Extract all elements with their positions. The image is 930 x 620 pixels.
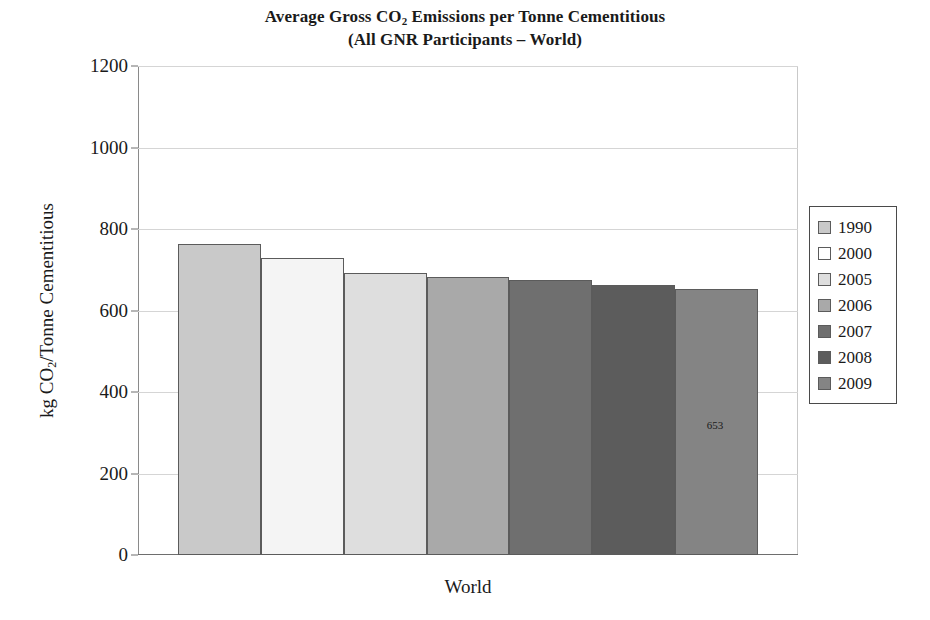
chart-title-line-1: Average Gross CO2 Emissions per Tonne Ce… <box>0 6 930 29</box>
chart-figure: Average Gross CO2 Emissions per Tonne Ce… <box>0 0 930 620</box>
chart-title: Average Gross CO2 Emissions per Tonne Ce… <box>0 6 930 52</box>
y-axis-tick-label: 800 <box>100 218 139 240</box>
y-axis-tick-label: 0 <box>119 544 139 566</box>
chart-legend: 1990200020052006200720082009 <box>809 206 897 404</box>
legend-swatch-icon <box>818 221 831 234</box>
bar-value-label: 653 <box>707 419 724 431</box>
legend-item-2000[interactable]: 2000 <box>818 240 888 266</box>
bar-2007 <box>509 280 592 555</box>
legend-item-label: 2006 <box>838 297 872 314</box>
y-axis-title-text-after-subscript: /Tonne Cementitious <box>36 203 57 362</box>
chart-title-text-before-subscript: Average Gross CO <box>265 7 402 26</box>
legend-swatch-icon <box>818 325 831 338</box>
legend-item-label: 2005 <box>838 271 872 288</box>
legend-item-2007[interactable]: 2007 <box>818 318 888 344</box>
chart-subtitle: (All GNR Participants – World) <box>0 29 930 52</box>
legend-swatch-icon <box>818 247 831 260</box>
legend-item-label: 2008 <box>838 349 872 366</box>
plot-area: 020040060080010001200 653 <box>138 66 798 555</box>
legend-swatch-icon <box>818 351 831 364</box>
y-axis-title-subscript: 2 <box>45 362 59 368</box>
legend-swatch-icon <box>818 273 831 286</box>
legend-swatch-icon <box>818 299 831 312</box>
y-axis-tick-label: 400 <box>100 381 139 403</box>
chart-title-subscript: 2 <box>402 15 408 27</box>
bar-2000 <box>261 258 344 555</box>
legend-swatch-icon <box>818 377 831 390</box>
x-axis-title: World <box>138 576 798 598</box>
legend-item-label: 2007 <box>838 323 872 340</box>
legend-item-2006[interactable]: 2006 <box>818 292 888 318</box>
legend-item-2008[interactable]: 2008 <box>818 344 888 370</box>
legend-item-label: 2009 <box>838 375 872 392</box>
bars-group: 653 <box>138 66 798 555</box>
legend-item-2009[interactable]: 2009 <box>818 370 888 396</box>
legend-item-label: 2000 <box>838 245 872 262</box>
legend-item-1990[interactable]: 1990 <box>818 214 888 240</box>
bar-2006 <box>427 277 510 555</box>
y-axis-tick-label: 600 <box>100 300 139 322</box>
y-axis-title-text-before-subscript: kg CO <box>36 368 57 418</box>
bar-2008 <box>592 285 675 555</box>
legend-item-2005[interactable]: 2005 <box>818 266 888 292</box>
y-axis-tick-label: 200 <box>100 463 139 485</box>
bar-2005 <box>344 273 427 555</box>
y-axis-tick-label: 1200 <box>90 55 138 77</box>
chart-title-text-after-subscript: Emissions per Tonne Cementitious <box>407 7 665 26</box>
legend-item-label: 1990 <box>838 219 872 236</box>
y-axis-title: kg CO2/Tonne Cementitious <box>34 66 60 555</box>
bar-1990 <box>178 244 261 555</box>
y-axis-tick-label: 1000 <box>90 137 138 159</box>
